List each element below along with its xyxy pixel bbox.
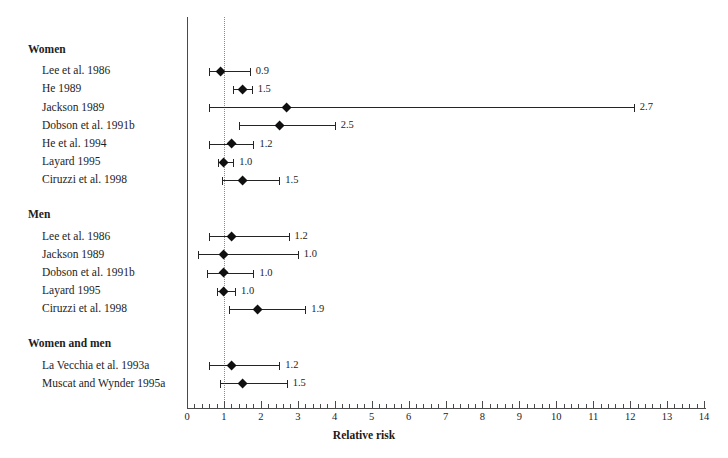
axis-tick — [431, 404, 432, 408]
axis-tick — [674, 404, 675, 408]
axis-tick — [438, 404, 439, 408]
x-tick-label: 10 — [544, 412, 568, 423]
axis-tick — [571, 404, 572, 408]
x-tick-label: 12 — [618, 412, 642, 423]
axis-tick — [601, 404, 602, 408]
ci-cap-high — [287, 380, 288, 388]
axis-tick — [349, 404, 350, 408]
axis-tick — [379, 404, 380, 408]
axis-tick — [401, 404, 402, 408]
study-label: Ciruzzi et al. 1998 — [42, 174, 127, 186]
estimate-marker — [274, 121, 284, 131]
estimate-value-label: 1.9 — [311, 304, 324, 315]
axis-tick — [615, 404, 616, 408]
axis-tick — [224, 401, 225, 408]
axis-tick — [320, 404, 321, 408]
axis-tick — [652, 404, 653, 408]
ci-cap-low — [209, 362, 210, 370]
study-label: Lee et al. 1986 — [42, 231, 110, 243]
axis-tick — [313, 404, 314, 408]
ci-cap-high — [233, 159, 234, 167]
axis-tick — [645, 404, 646, 408]
axis-tick — [586, 404, 587, 408]
axis-tick — [497, 404, 498, 408]
ci-cap-low — [209, 68, 210, 76]
estimate-value-label: 1.0 — [239, 157, 252, 168]
estimate-value-label: 0.9 — [256, 66, 269, 77]
axis-tick — [630, 401, 631, 408]
ci-cap-high — [235, 288, 236, 296]
axis-tick — [519, 401, 520, 408]
ci-line — [222, 180, 279, 181]
study-label: Layard 1995 — [42, 156, 100, 168]
ci-cap-low — [198, 251, 199, 259]
estimate-value-label: 1.2 — [295, 231, 308, 242]
axis-tick — [460, 404, 461, 408]
estimate-marker — [226, 232, 236, 242]
x-tick-label: 8 — [470, 412, 494, 423]
study-label: Muscat and Wynder 1995a — [42, 378, 165, 390]
study-label: Lee et al. 1986 — [42, 65, 110, 77]
x-tick-label: 11 — [581, 412, 605, 423]
estimate-value-label: 1.5 — [285, 175, 298, 186]
axis-tick — [239, 404, 240, 408]
ci-cap-low — [220, 380, 221, 388]
estimate-marker — [252, 304, 262, 314]
ci-cap-high — [634, 104, 635, 112]
axis-tick — [549, 404, 550, 408]
study-label: La Vecchia et al. 1993a — [42, 360, 149, 372]
study-label: Dobson et al. 1991b — [42, 267, 135, 279]
axis-tick — [660, 404, 661, 408]
estimate-value-label: 1.2 — [259, 139, 272, 150]
axis-tick — [527, 404, 528, 408]
ci-cap-high — [252, 86, 253, 94]
estimate-marker — [237, 175, 247, 185]
estimate-value-label: 1.0 — [304, 249, 317, 260]
axis-tick — [305, 404, 306, 408]
x-tick-label: 5 — [360, 412, 384, 423]
y-axis-line — [187, 17, 188, 408]
study-label: Layard 1995 — [42, 285, 100, 297]
axis-tick — [327, 404, 328, 408]
axis-tick — [290, 404, 291, 408]
ci-line — [209, 107, 634, 108]
axis-tick — [409, 401, 410, 408]
axis-tick — [578, 404, 579, 408]
study-label: He et al. 1994 — [42, 138, 107, 150]
axis-tick — [556, 401, 557, 408]
ci-cap-high — [305, 306, 306, 314]
axis-tick — [253, 404, 254, 408]
axis-tick — [490, 404, 491, 408]
axis-tick — [689, 404, 690, 408]
estimate-marker — [226, 361, 236, 371]
estimate-marker — [219, 250, 229, 260]
x-tick-label: 0 — [175, 412, 199, 423]
estimate-value-label: 1.5 — [293, 378, 306, 389]
axis-tick — [512, 404, 513, 408]
x-axis-title: Relative risk — [0, 430, 728, 442]
estimate-marker — [282, 103, 292, 113]
axis-tick — [202, 404, 203, 408]
ci-cap-high — [335, 122, 336, 130]
x-axis-line — [187, 408, 706, 409]
axis-tick — [357, 404, 358, 408]
x-tick-label: 7 — [434, 412, 458, 423]
x-tick-label: 3 — [286, 412, 310, 423]
axis-tick — [638, 404, 639, 408]
forest-plot: 01234567891011121314Relative riskWomenLe… — [0, 0, 728, 458]
ci-cap-high — [253, 141, 254, 149]
estimate-marker — [237, 84, 247, 94]
study-label: Jackson 1989 — [42, 102, 104, 114]
ci-line — [207, 273, 253, 274]
estimate-value-label: 2.5 — [341, 120, 354, 131]
axis-tick — [416, 404, 417, 408]
group-heading-2: Women and men — [28, 338, 111, 350]
ci-cap-low — [217, 288, 218, 296]
estimate-marker — [219, 157, 229, 167]
ci-line — [220, 383, 286, 384]
reference-line-rr-1 — [224, 17, 225, 408]
ci-cap-low — [233, 86, 234, 94]
estimate-marker — [226, 139, 236, 149]
ci-cap-high — [279, 362, 280, 370]
x-tick-label: 1 — [212, 412, 236, 423]
